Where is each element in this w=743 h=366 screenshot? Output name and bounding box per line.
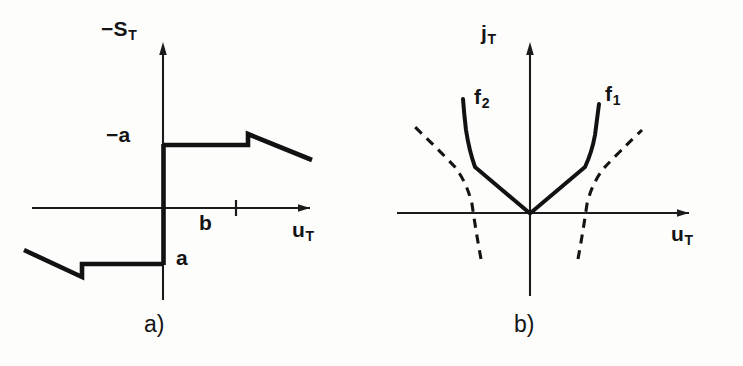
panel-a-level-a-label: a [176,247,188,268]
panel-b-y-axis-label: jT [481,22,496,46]
panel-a-canvas [0,0,372,366]
panel-b-f2-label: f2 [474,86,490,110]
panel-a-y-axis-label: −ST [101,18,137,42]
panel-b-x-axis-label: uT [671,223,693,247]
panel-a-lower-branch [24,250,163,277]
panel-b-canvas [371,0,743,366]
panel-b-f1-dashed-asymptote [578,130,642,259]
panel-b-f1-label: f1 [605,83,621,107]
figure-root: −ST −a a b uT a) [0,0,743,366]
panel-a-x-axis [32,204,310,212]
panel-b-f2-curve [463,99,530,213]
panel-a-level-neg-a-label: −a [106,124,130,145]
panel-b-f1-curve [531,104,600,213]
panel-a-tick-b-label: b [199,212,212,233]
panel-b-caption: b) [514,313,534,336]
panel-b-x-axis [397,209,689,217]
panel-b: jT f1 f2 uT b) [371,0,743,366]
panel-a-x-axis-label: uT [292,219,314,243]
panel-a-caption: a) [144,313,164,336]
panel-a-upper-branch [164,134,312,160]
panel-a: −ST −a a b uT a) [0,0,372,366]
panel-b-y-axis [526,42,534,296]
